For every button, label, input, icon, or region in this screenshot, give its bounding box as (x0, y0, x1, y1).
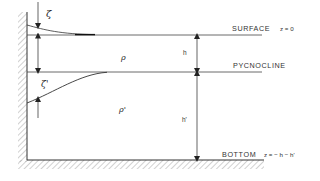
upper-depth-label: h (183, 49, 187, 56)
two-layer-diagram: ζ ζ' ρ ρ' h h' SURFACE z = 0 PYCNOCLINE … (0, 0, 320, 181)
zeta-prime-label: ζ' (41, 79, 48, 89)
upper-density-label: ρ (120, 53, 126, 62)
surface-label: SURFACE (232, 24, 270, 33)
surface-displacement-curve (27, 25, 95, 35)
wall-hatch (18, 12, 27, 162)
pycnocline-displacement-curve (27, 72, 107, 103)
pycnocline-label: PYCNOCLINE (233, 61, 286, 70)
lower-density-label: ρ' (118, 105, 126, 114)
bottom-label: BOTTOM (222, 150, 256, 159)
surface-equation: z = 0 (280, 25, 294, 32)
zeta-label: ζ (46, 8, 52, 19)
bottom-equation: z = − h − h' (264, 151, 295, 158)
lower-depth-label: h' (182, 116, 187, 123)
bottom-hatch (18, 160, 264, 169)
